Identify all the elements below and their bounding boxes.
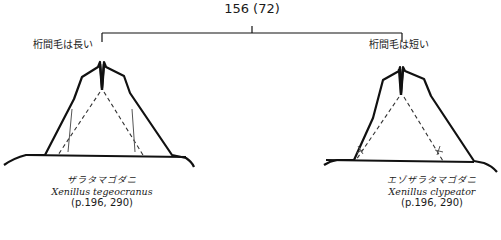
lead-text-right: 桁間毛は短い bbox=[369, 39, 429, 51]
seta-long-left bbox=[68, 109, 72, 152]
species-caption-right: エゾザラタマゴダニ Xenillus clypeator (p.196, 290… bbox=[362, 175, 501, 208]
species-caption-left: ザラタマゴダニ Xenillus tegeocranus (p.196, 290… bbox=[32, 175, 172, 208]
key-bracket bbox=[102, 26, 402, 42]
japanese-name: エゾザラタマゴダニ bbox=[362, 175, 501, 186]
seta-long-right bbox=[132, 109, 135, 152]
scientific-name: Xenillus clypeator bbox=[362, 186, 501, 197]
page-reference: (p.196, 290) bbox=[362, 197, 501, 208]
prodorsum-figure-left bbox=[4, 62, 194, 167]
page-reference: (p.196, 290) bbox=[32, 197, 172, 208]
prodorsum-figure-right bbox=[324, 67, 497, 172]
scientific-name: Xenillus tegeocranus bbox=[32, 186, 172, 197]
lead-text-left: 桁間毛は長い bbox=[33, 39, 93, 51]
japanese-name: ザラタマゴダニ bbox=[32, 175, 172, 186]
